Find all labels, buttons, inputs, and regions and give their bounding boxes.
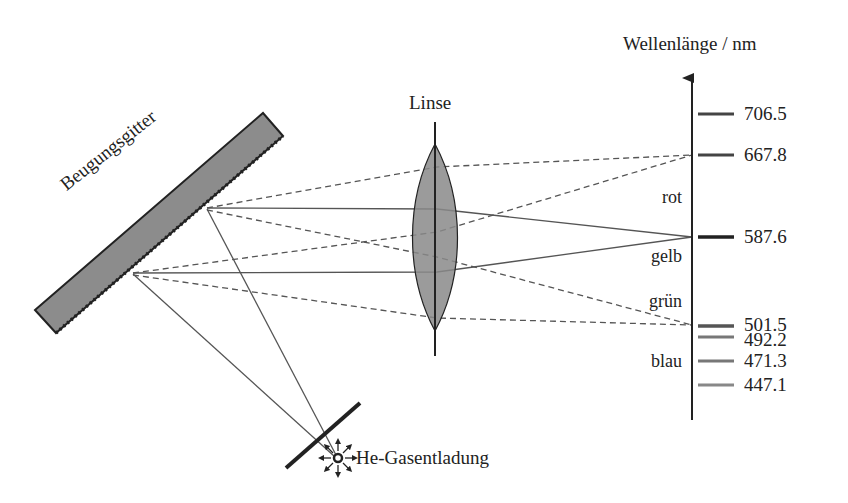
axis-title: Wellenlänge / nm	[623, 33, 757, 55]
lens-label: Linse	[409, 92, 451, 114]
light-source-icon	[321, 441, 355, 475]
source-label: He-Gasentladung	[356, 447, 489, 469]
wavelength-label-706: 706.5	[744, 103, 787, 125]
color-band-red: rot	[622, 187, 682, 208]
diffraction-grating	[35, 113, 283, 333]
wavelength-label-492: 492.2	[744, 329, 787, 351]
wavelength-label-588: 587.6	[744, 226, 787, 248]
incident-rays	[133, 209, 336, 456]
lens	[413, 122, 458, 356]
wavelength-label-447: 447.1	[744, 374, 787, 396]
wavelength-label-668: 667.8	[744, 144, 787, 166]
color-band-blue: blau	[622, 351, 682, 372]
color-band-yellow: gelb	[622, 246, 682, 267]
diffraction-spectrometer-diagram: Wellenlänge / nm Linse Beugungsgitter He…	[0, 0, 848, 503]
color-band-green: grün	[622, 291, 682, 312]
spectral-lines	[698, 114, 734, 385]
wavelength-label-471: 471.3	[744, 350, 787, 372]
